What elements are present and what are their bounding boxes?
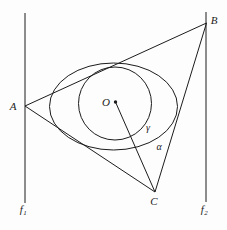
- line-label-f1: f1: [20, 204, 27, 215]
- line-label-f1-base: f: [20, 203, 23, 215]
- conics-group: [50, 63, 178, 150]
- side-bc: [155, 23, 207, 192]
- line-label-f2-base: f: [201, 203, 204, 215]
- figure-svg: [0, 0, 227, 230]
- side-ca: [25, 106, 155, 192]
- vertex-label-a: A: [10, 101, 17, 112]
- angle-label-gamma: γ: [146, 123, 150, 133]
- vertex-label-b: B: [211, 15, 218, 26]
- line-label-f1-sub: 1: [23, 209, 27, 217]
- inscribed-ellipse: [50, 63, 178, 150]
- line-label-f2-sub: 2: [204, 209, 208, 217]
- vertical-lines-group: [25, 12, 206, 203]
- line-label-f2: f2: [201, 204, 208, 215]
- triangle-group: [25, 23, 207, 192]
- angle-label-alpha: α: [156, 142, 161, 152]
- geometry-figure: A B C O γ α f1 f2: [0, 0, 227, 230]
- vertex-label-c: C: [150, 196, 157, 207]
- center-label-o: O: [102, 97, 110, 108]
